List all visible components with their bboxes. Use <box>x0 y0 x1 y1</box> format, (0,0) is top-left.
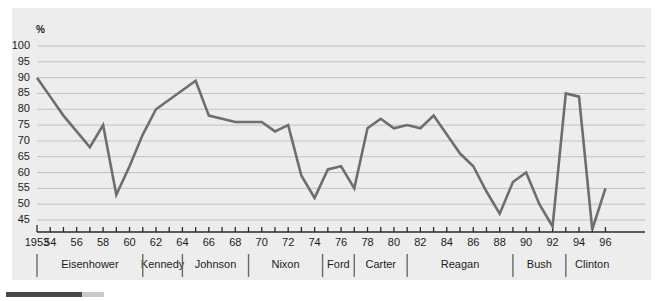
y-axis-tick-label: 100 <box>0 39 30 51</box>
x-axis-tick-label: 78 <box>360 236 376 248</box>
y-axis-tick-label: 85 <box>0 86 30 98</box>
y-axis-tick-label: 80 <box>0 102 30 114</box>
x-axis-tick-label: 70 <box>254 236 270 248</box>
x-axis-tick-label: 86 <box>465 236 481 248</box>
x-axis-tick-label: 88 <box>492 236 508 248</box>
y-axis-tick-label: 60 <box>0 166 30 178</box>
y-axis-tick-label: 45 <box>0 213 30 225</box>
y-axis-tick-label: 50 <box>0 197 30 209</box>
x-axis-tick-label: 84 <box>439 236 455 248</box>
x-axis-tick-label: 68 <box>227 236 243 248</box>
y-axis-tick-label: 95 <box>0 55 30 67</box>
x-axis-tick-label: 90 <box>518 236 534 248</box>
bottom-accent-bar-secondary <box>82 292 104 297</box>
x-axis-tick-label: 54 <box>42 236 58 248</box>
x-axis-tick-label: 62 <box>148 236 164 248</box>
x-axis-tick-label: 94 <box>571 236 587 248</box>
x-axis-tick-label: 92 <box>545 236 561 248</box>
y-axis-unit-label: % <box>36 24 45 35</box>
x-axis-tick-label: 74 <box>307 236 323 248</box>
y-axis-tick-label: 75 <box>0 118 30 130</box>
chart-screenshot: % 1009590858075706560555045 195354565860… <box>0 0 663 301</box>
x-axis-tick-label: 64 <box>174 236 190 248</box>
x-axis-tick-label: 56 <box>69 236 85 248</box>
x-axis-tick-label: 96 <box>597 236 613 248</box>
x-axis-tick-label: 58 <box>95 236 111 248</box>
y-axis-tick-label: 65 <box>0 150 30 162</box>
bottom-accent-bar <box>6 292 82 297</box>
y-axis-tick-label: 90 <box>0 71 30 83</box>
x-axis-tick-label: 76 <box>333 236 349 248</box>
y-axis-tick-label: 55 <box>0 181 30 193</box>
x-axis-tick-label: 82 <box>412 236 428 248</box>
x-axis-tick-label: 66 <box>201 236 217 248</box>
x-axis-tick-label: 72 <box>280 236 296 248</box>
x-axis-tick-label: 80 <box>386 236 402 248</box>
y-axis-tick-label: 70 <box>0 134 30 146</box>
x-axis-tick-label: 60 <box>122 236 138 248</box>
president-label-clinton: Clinton <box>537 258 647 270</box>
